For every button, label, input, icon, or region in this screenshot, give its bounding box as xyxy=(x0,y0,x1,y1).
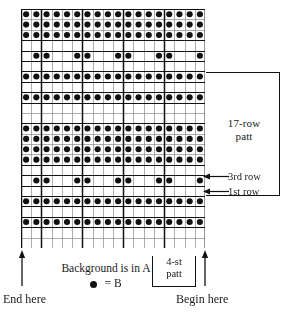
chart-figure: 17-row patt 3rd row 1st row Background i… xyxy=(0,0,288,312)
callout-1st-row: 1st row xyxy=(228,186,259,197)
begin-here-label: Begin here xyxy=(176,292,228,306)
knitting-chart-grid xyxy=(21,9,205,248)
first-row-arrow-icon xyxy=(203,187,229,196)
row-repeat-label: 17-row patt xyxy=(209,117,279,142)
begin-here-arrow-icon xyxy=(200,250,210,286)
stitch-repeat-label: 4-st patt xyxy=(152,256,196,280)
callout-3rd-row: 3rd row xyxy=(228,171,261,182)
row-repeat-label-line1: 17-row xyxy=(228,117,260,129)
stitch-repeat-label-line1: 4-st xyxy=(166,256,182,267)
row-repeat-label-line2: patt xyxy=(209,130,279,143)
chart-grid-canvas xyxy=(21,9,205,248)
third-row-arrow-icon xyxy=(203,172,229,181)
legend-dot-icon xyxy=(90,281,97,288)
legend-equals-sign: = xyxy=(104,277,111,290)
legend-symbol-label: B xyxy=(114,277,122,289)
end-here-label: End here xyxy=(3,292,46,306)
stitch-repeat-label-line2: patt xyxy=(152,268,196,280)
end-here-arrow-icon xyxy=(17,250,27,286)
